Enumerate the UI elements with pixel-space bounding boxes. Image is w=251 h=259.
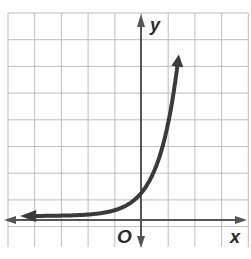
origin-label: O <box>117 226 132 247</box>
x-axis-right-arrow-icon <box>235 216 247 224</box>
y-axis-up-arrow-icon <box>137 14 145 27</box>
x-axis-label: x <box>229 227 241 247</box>
exponential-graph: y x O <box>0 0 251 259</box>
curve-top-arrow-icon <box>171 55 183 68</box>
y-axis-label: y <box>149 15 161 35</box>
grid-lines <box>8 13 248 247</box>
y-axis <box>137 14 145 248</box>
x-axis-left-arrow-icon <box>4 216 16 224</box>
y-axis-down-arrow-icon <box>137 236 145 248</box>
exponential-curve <box>34 66 177 216</box>
